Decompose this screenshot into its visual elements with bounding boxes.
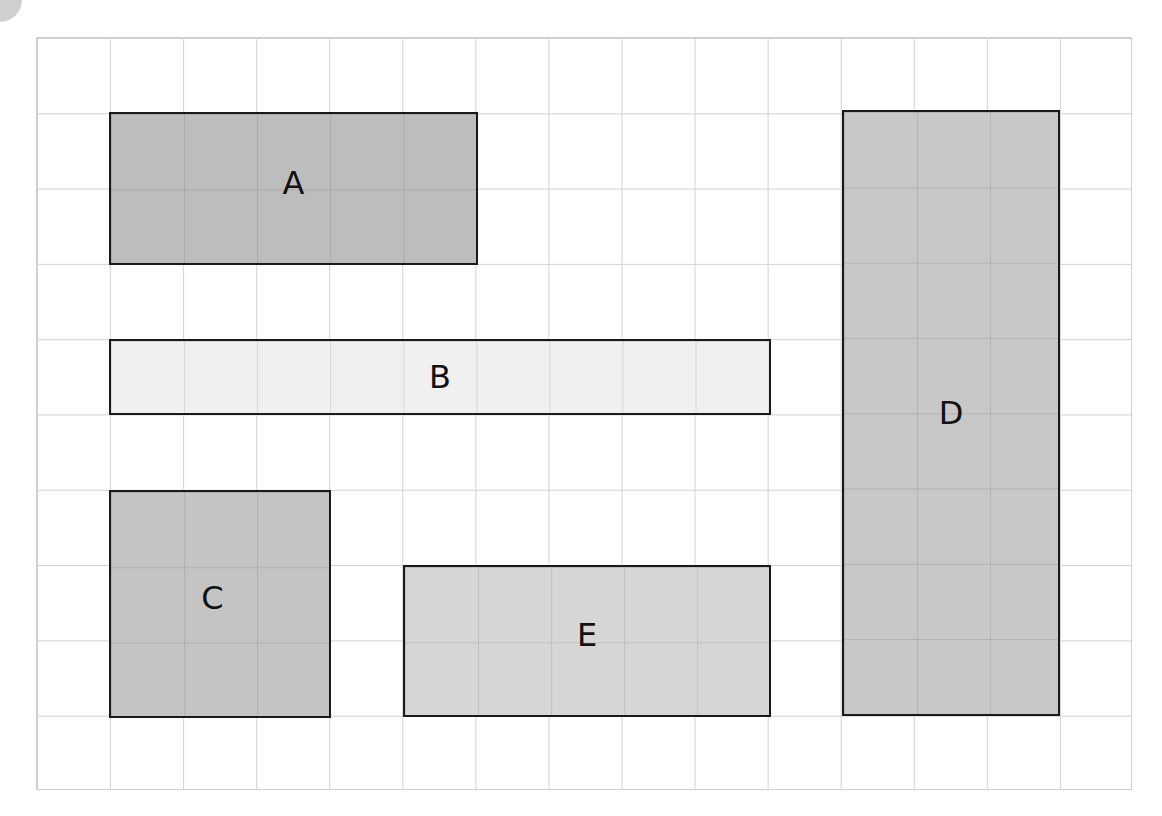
rectangle-a: A (109, 112, 478, 265)
rectangle-d-label: D (939, 394, 964, 432)
rectangle-a-label: A (283, 164, 305, 202)
rectangle-e: E (403, 565, 771, 717)
rectangle-c-label: C (201, 579, 223, 617)
rectangle-b-label: B (429, 358, 451, 396)
page-corner-decoration (0, 0, 22, 22)
rectangle-e-label: E (577, 616, 597, 654)
rectangle-d: D (842, 110, 1060, 716)
rectangle-c: C (109, 490, 331, 718)
rectangle-b: B (109, 339, 771, 415)
